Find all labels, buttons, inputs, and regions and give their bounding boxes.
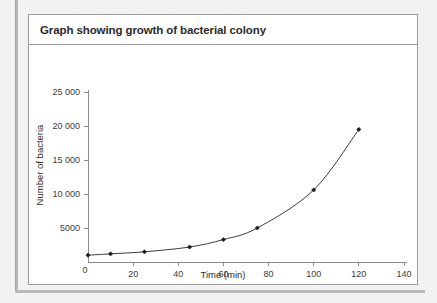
x-tick-label: 40 (173, 269, 183, 279)
y-tick-label: 25 000 (52, 87, 80, 97)
series-path (88, 129, 359, 255)
data-point-marker (255, 226, 259, 230)
chart-title-bar: Graph showing growth of bacterial colony (29, 15, 417, 45)
data-point-marker (142, 250, 146, 254)
x-axis: 20406080100120140 (88, 262, 412, 279)
page-bottom-rule (15, 290, 425, 293)
y-tick-label: 5000 (60, 223, 80, 233)
y-axis-title: Number of bacteria (34, 124, 45, 206)
x-tick-label: 120 (351, 269, 366, 279)
data-point-marker (108, 252, 112, 256)
data-series-line (88, 129, 359, 255)
x-tick-label: 140 (396, 269, 411, 279)
data-point-marker (187, 245, 191, 249)
x-tick-label: 100 (306, 269, 321, 279)
y-tick-label: 0 (82, 265, 87, 275)
y-tick-label: 10 000 (52, 189, 80, 199)
y-tick-label: 20 000 (52, 121, 80, 131)
page-left-rule (15, 0, 18, 290)
x-tick-label: 20 (128, 269, 138, 279)
y-axis: 0500010 00015 00020 00025 000 (52, 87, 88, 275)
chart-plot-area: 0500010 00015 00020 00025 000 2040608010… (29, 45, 417, 284)
data-point-marker (221, 237, 225, 241)
data-point-markers (86, 127, 361, 257)
x-axis-title: Time (min) (200, 269, 245, 280)
chart-card: Graph showing growth of bacterial colony… (28, 14, 418, 285)
data-point-marker (86, 253, 90, 257)
page-title: Graph showing growth of bacterial colony (40, 24, 266, 36)
bacterial-growth-line-chart: 0500010 00015 00020 00025 000 2040608010… (29, 45, 417, 284)
y-tick-label: 15 000 (52, 155, 80, 165)
x-tick-label: 80 (264, 269, 274, 279)
